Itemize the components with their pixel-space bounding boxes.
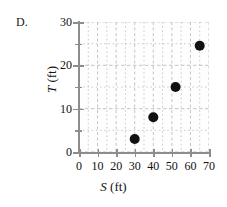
- y-axis-title: T (ft): [45, 25, 58, 135]
- x-tick-label: 50: [166, 160, 178, 172]
- y-tick-label: 0: [66, 146, 72, 158]
- y-tick-label: 30: [60, 16, 72, 28]
- x-axis-units: (ft): [107, 179, 127, 194]
- y-tick-label: 20: [60, 59, 72, 71]
- x-tick-major: [153, 149, 155, 157]
- plot-area: [79, 22, 209, 152]
- x-tick-label: 0: [76, 160, 82, 172]
- x-tick-major: [116, 149, 118, 157]
- panel-letter-label: D.: [16, 16, 28, 28]
- scatter-plot-figure: D. 0102030 010203040506070 S (ft) T (ft): [0, 0, 227, 207]
- data-point: [130, 134, 140, 144]
- x-tick-label: 10: [92, 160, 104, 172]
- x-tick-label: 40: [147, 160, 159, 172]
- x-tick-major: [135, 149, 137, 157]
- data-point: [195, 41, 205, 51]
- y-tick-major: [73, 65, 84, 67]
- y-tick-label: 10: [60, 103, 72, 115]
- y-axis-variable: T: [44, 86, 59, 93]
- x-tick-label: 30: [129, 160, 141, 172]
- plot-canvas: [79, 22, 209, 152]
- y-tick-major: [73, 22, 84, 24]
- x-tick-major: [209, 149, 211, 157]
- gridlines: [79, 22, 209, 152]
- x-axis-title: S (ft): [0, 180, 227, 193]
- y-axis-units: (ft): [44, 66, 59, 86]
- data-point: [148, 112, 158, 122]
- data-markers: [130, 41, 205, 144]
- data-point: [171, 82, 181, 92]
- y-tick-minor: [75, 87, 82, 88]
- x-tick-label: 60: [184, 160, 196, 172]
- y-tick-minor: [75, 44, 82, 45]
- y-tick-minor: [75, 130, 82, 131]
- y-tick-major: [73, 109, 84, 111]
- x-tick-major: [79, 149, 81, 157]
- x-tick-major: [98, 149, 100, 157]
- x-tick-label: 70: [203, 160, 215, 172]
- x-tick-major: [190, 149, 192, 157]
- x-tick-label: 20: [110, 160, 122, 172]
- x-tick-major: [172, 149, 174, 157]
